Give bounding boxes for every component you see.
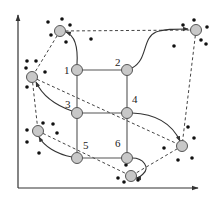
arrow-2-to-tr — [132, 29, 188, 68]
dashed-edge-l-r — [32, 77, 182, 146]
grid-node-2 — [122, 65, 133, 76]
arrow-1-to-tl — [66, 32, 77, 64]
grid-node-3 — [72, 108, 83, 119]
axes — [18, 15, 198, 188]
node-label-4: 4 — [132, 93, 138, 105]
dashed-edges — [32, 30, 196, 176]
node-label-5: 5 — [83, 139, 89, 151]
grid-node-6 — [122, 153, 133, 164]
cluster-node-tr — [191, 25, 202, 36]
dashed-edge-r-bm — [131, 146, 182, 176]
cluster-node-l — [27, 72, 38, 83]
diagram-canvas: 1 2 3 4 5 6 — [0, 0, 210, 203]
dashed-edge-tr-r — [182, 30, 196, 146]
cluster-node-bl — [33, 126, 44, 137]
arrow-4-to-r — [132, 113, 180, 141]
grid-node-5 — [72, 153, 83, 164]
cluster-node-bm — [126, 171, 137, 182]
arrow-5-to-bl — [39, 137, 72, 157]
grid-node-1 — [72, 65, 83, 76]
node-label-6: 6 — [115, 137, 121, 149]
dashed-edge-tl-tr — [60, 30, 196, 31]
node-label-1: 1 — [64, 64, 70, 76]
grid-node-4 — [122, 108, 133, 119]
cluster-node-tl — [55, 26, 66, 37]
node-label-3: 3 — [65, 98, 71, 110]
cluster-node-r — [177, 141, 188, 152]
node-label-2: 2 — [115, 56, 121, 68]
grid-nodes — [72, 65, 133, 164]
dashed-edge-tl-l — [32, 31, 60, 77]
